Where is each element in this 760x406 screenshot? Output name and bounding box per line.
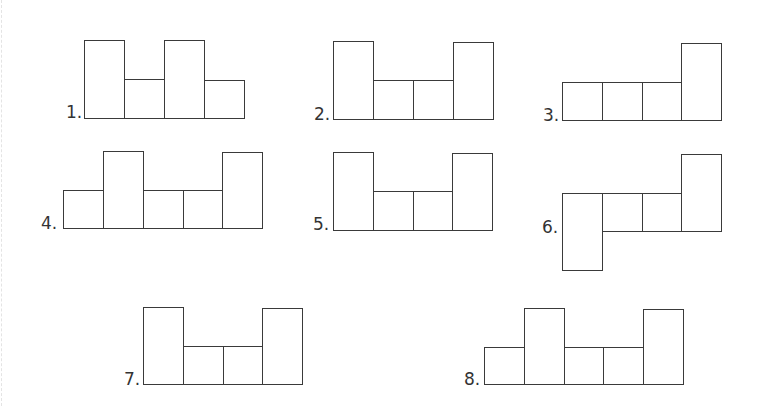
square-face — [602, 193, 643, 232]
tall-rectangle-face — [562, 193, 603, 271]
figure-number-label: 1. — [66, 104, 82, 121]
tall-rectangle-face — [143, 307, 184, 385]
tall-rectangle-face — [681, 154, 722, 232]
figure-number-label: 6. — [542, 219, 558, 236]
figure-number-label: 4. — [41, 215, 57, 232]
square-face — [373, 191, 414, 231]
square-face — [484, 347, 525, 385]
square-face — [204, 80, 245, 119]
square-face — [143, 190, 184, 229]
square-face — [642, 82, 683, 121]
tall-rectangle-face — [333, 152, 374, 231]
figure-number-label: 8. — [464, 371, 480, 388]
figure-number-label: 3. — [543, 107, 559, 124]
square-face — [562, 82, 603, 121]
page-margin-guide — [1, 0, 2, 406]
square-face — [602, 82, 643, 121]
tall-rectangle-face — [681, 43, 722, 121]
square-face — [603, 347, 644, 385]
square-face — [183, 346, 224, 385]
square-face — [63, 190, 104, 229]
figure-number-label: 5. — [313, 216, 329, 233]
square-face — [183, 190, 224, 229]
square-face — [642, 193, 683, 232]
square-face — [413, 80, 454, 120]
figure-number-label: 2. — [314, 106, 330, 123]
tall-rectangle-face — [643, 309, 684, 385]
tall-rectangle-face — [84, 40, 125, 119]
square-face — [413, 191, 454, 231]
square-face — [564, 347, 605, 385]
figure-number-label: 7. — [124, 371, 140, 388]
tall-rectangle-face — [453, 42, 494, 120]
tall-rectangle-face — [524, 308, 565, 385]
tall-rectangle-face — [452, 153, 493, 231]
tall-rectangle-face — [164, 40, 205, 119]
square-face — [223, 346, 264, 385]
tall-rectangle-face — [262, 308, 303, 385]
tall-rectangle-face — [103, 151, 144, 229]
tall-rectangle-face — [222, 152, 263, 229]
tall-rectangle-face — [333, 41, 374, 120]
square-face — [373, 80, 414, 120]
square-face — [124, 79, 165, 119]
